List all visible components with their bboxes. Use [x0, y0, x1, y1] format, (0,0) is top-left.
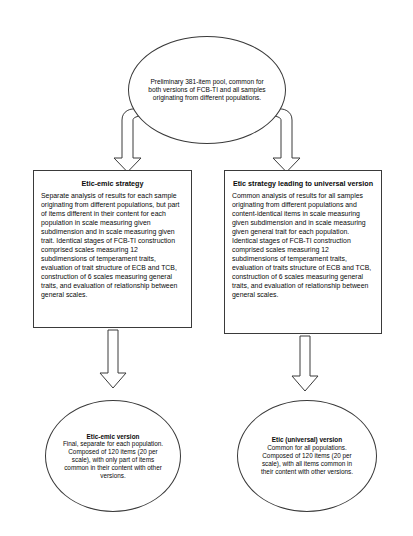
- node-etic-strategy-universal: Etic strategy leading to universal versi…: [224, 170, 382, 334]
- node-etic-emic-version-body: Final, separate for each population. Com…: [63, 440, 163, 478]
- node-etic-emic-strategy: Etic-emic strategy Separate analysis of …: [33, 170, 192, 328]
- node-etic-universal-version-content: Etic (universal) version Common for all …: [255, 436, 359, 475]
- node-etic-emic-version-content: Etic-emic version Final, separate for ea…: [61, 433, 165, 480]
- connector-left-strategy-to-left-result: [100, 330, 126, 388]
- node-etic-emic-version: Etic-emic version Final, separate for ea…: [45, 400, 181, 512]
- node-etic-strategy-universal-body: Common analysis of results for all sampl…: [232, 192, 374, 300]
- node-source-text: Preliminary 381-item pool, common for bo…: [145, 78, 269, 102]
- node-source-item-pool: Preliminary 381-item pool, common for bo…: [128, 36, 286, 144]
- node-etic-emic-version-title: Etic-emic version: [61, 433, 165, 441]
- node-etic-universal-version-body: Common for all populations. Composed of …: [261, 444, 353, 474]
- node-etic-strategy-universal-title: Etic strategy leading to universal versi…: [232, 179, 374, 188]
- node-etic-emic-strategy-body: Separate analysis of results for each sa…: [41, 192, 184, 300]
- node-etic-universal-version: Etic (universal) version Common for all …: [237, 400, 377, 512]
- connector-right-strategy-to-right-result: [292, 336, 318, 391]
- node-etic-emic-strategy-title: Etic-emic strategy: [41, 179, 184, 188]
- flowchart-canvas: Preliminary 381-item pool, common for bo…: [0, 0, 413, 536]
- node-etic-universal-version-title: Etic (universal) version: [255, 436, 359, 444]
